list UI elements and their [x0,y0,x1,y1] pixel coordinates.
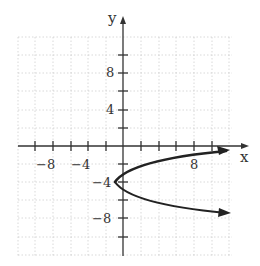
y-tick-label-4: 4 [106,102,114,117]
y-tick-label-neg4: −4 [92,175,111,190]
y-axis-label: y [107,9,117,27]
x-tick-label-neg8: −8 [36,157,55,172]
y-axis [118,16,128,256]
y-axis-arrow-icon [120,16,126,24]
x-tick-label-neg4: −4 [71,157,90,172]
parabola-curve [115,146,231,217]
y-tick-label-neg8: −8 [92,211,111,226]
upper-curve-arrow-icon [217,146,230,155]
x-tick-label-8: 8 [190,157,198,172]
y-tick-label-8: 8 [106,65,114,80]
x-axis [18,141,249,151]
axis-labels: y x −8 −4 8 8 4 −4 −8 [36,9,249,226]
x-axis-label: x [240,148,249,166]
parabola-graph: y x −8 −4 8 8 4 −4 −8 [0,0,260,266]
